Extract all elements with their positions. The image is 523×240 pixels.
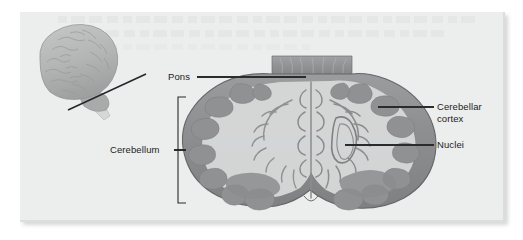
cerebellum-coronal-section <box>182 56 436 210</box>
label-nuclei: Nuclei <box>437 139 464 151</box>
label-cerebellar-cortex-line1: Cerebellar <box>437 101 482 112</box>
label-cerebellum: Cerebellum <box>110 144 160 156</box>
label-cerebellar-cortex-line2: cortex <box>437 113 463 124</box>
figure-root: Pons Cerebellum Cerebellar cortex Nuclei <box>0 0 523 240</box>
label-pons: Pons <box>168 71 190 83</box>
inset-cerebral-cortex <box>40 24 118 99</box>
label-cerebellar-cortex: Cerebellar cortex <box>437 101 493 124</box>
lateral-brain-inset <box>40 24 146 120</box>
